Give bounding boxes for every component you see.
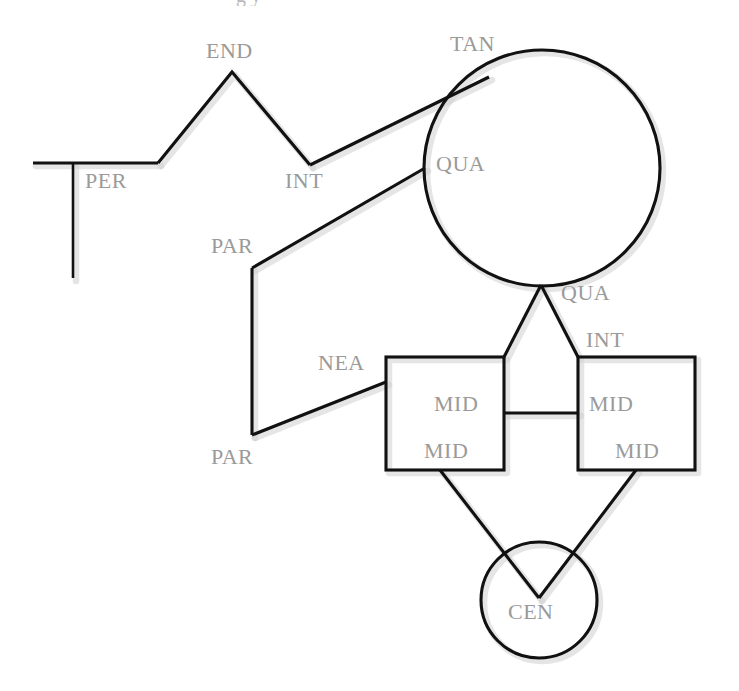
constraint-label-int_right[interactable]: INT [586,329,624,351]
near-line[interactable] [252,382,386,435]
constraint-label-mid_right_lower[interactable]: MID [615,440,659,462]
diagram-vector-layer [0,0,739,691]
constraint-label-end[interactable]: END [206,40,253,62]
constraint-label-mid_right_upper[interactable]: MID [589,393,633,415]
constraint-label-par_upper[interactable]: PAR [211,235,253,257]
constraint-label-cen[interactable]: CEN [508,601,554,623]
quadrant-line[interactable] [252,168,425,268]
triangle-left-leg[interactable] [504,285,541,357]
geometric-diagram-canvas: g y [0,0,739,691]
zigzag-polyline[interactable] [158,72,310,165]
constraint-label-qua_left[interactable]: QUA [436,153,485,175]
center-right-line[interactable] [539,470,636,598]
constraint-label-nea[interactable]: NEA [318,352,365,374]
constraint-label-int_top[interactable]: INT [285,170,323,192]
constraint-label-per[interactable]: PER [85,170,127,192]
constraint-label-tan[interactable]: TAN [450,33,495,55]
constraint-label-mid_left_upper[interactable]: MID [434,393,478,415]
constraint-label-par_lower[interactable]: PAR [211,446,253,468]
constraint-label-qua_bottom[interactable]: QUA [561,282,610,304]
constraint-label-mid_left_lower[interactable]: MID [424,440,468,462]
